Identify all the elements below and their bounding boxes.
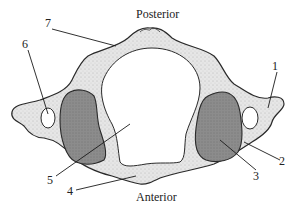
posterior-label: Posterior	[136, 8, 179, 20]
callout-2: 2	[279, 155, 285, 167]
callout-7: 7	[45, 17, 51, 29]
callout-5: 5	[47, 174, 53, 186]
leader-line-2	[244, 142, 280, 160]
vertebra-illustration	[0, 0, 298, 217]
anterior-label: Anterior	[136, 191, 177, 203]
callout-1: 1	[272, 60, 278, 72]
vertebra-diagram: Posterior Anterior 1 2 3 4 5 6 7	[0, 0, 298, 217]
callout-6: 6	[22, 38, 28, 50]
leader-line-7	[52, 29, 116, 46]
right-transverse-foramen	[242, 107, 258, 129]
callout-4: 4	[67, 185, 73, 197]
leader-line-4	[76, 176, 136, 190]
callout-3: 3	[253, 170, 259, 182]
right-articular-facet	[195, 92, 242, 162]
left-transverse-foramen	[41, 108, 55, 128]
